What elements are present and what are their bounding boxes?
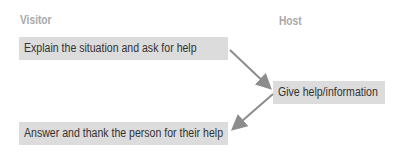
- arrow-to-visitor-icon: [234, 94, 273, 128]
- arrow-to-host-icon: [230, 50, 269, 87]
- dialogue-flow-diagram: Visitor Host Explain the situation and a…: [0, 0, 403, 155]
- arrows: [0, 0, 403, 155]
